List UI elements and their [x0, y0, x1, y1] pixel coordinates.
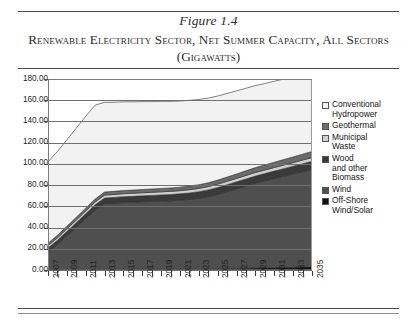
x-axis-tick — [123, 271, 124, 276]
legend-item-wood-and-other-biomass[interactable]: Wood and other Biomass — [322, 154, 417, 183]
x-axis-tick — [67, 271, 68, 276]
x-axis-label: 2029 — [259, 260, 268, 278]
x-axis-tick — [284, 271, 285, 276]
bottom-rule-thick — [18, 308, 399, 309]
legend-swatch-icon — [322, 135, 329, 142]
stacked-area-chart — [48, 79, 312, 270]
x-axis-tick — [246, 271, 247, 276]
x-axis-tick — [171, 271, 172, 276]
x-axis-tick — [265, 271, 266, 276]
x-axis-label: 2035 — [316, 260, 325, 278]
y-axis-label: 0.00 — [4, 265, 48, 274]
x-axis-tick — [48, 271, 49, 276]
x-axis-label: 2015 — [127, 260, 136, 278]
x-axis-tick — [312, 271, 313, 276]
x-axis-tick — [105, 271, 106, 276]
x-axis-tick — [152, 271, 153, 276]
legend-item-municipal-waste[interactable]: Municipal Waste — [322, 133, 417, 152]
plot-border — [48, 79, 312, 270]
x-axis-label: 2019 — [165, 260, 174, 278]
legend-item-wind[interactable]: Wind — [322, 185, 417, 195]
x-axis-tick — [114, 271, 115, 276]
x-axis-tick — [237, 271, 238, 276]
x-axis-tick — [293, 271, 294, 276]
y-axis-label: 120.00 — [4, 137, 48, 146]
y-axis-label: 20.00 — [4, 243, 48, 252]
x-axis-tick — [86, 271, 87, 276]
x-axis-tick — [76, 271, 77, 276]
legend-item-label: Geothermal — [332, 121, 376, 131]
x-axis-label: 2031 — [278, 260, 287, 278]
legend-item-conventional-hydropower[interactable]: Conventional Hydropower — [322, 100, 417, 119]
figure-container: Figure 1.4 Renewable Electricity Sector,… — [0, 0, 417, 326]
x-axis-tick — [227, 271, 228, 276]
x-axis-label: 2007 — [52, 260, 61, 278]
x-axis-tick — [189, 271, 190, 276]
legend-item-label: Wood and other Biomass — [332, 154, 367, 183]
legend-swatch-icon — [322, 156, 329, 163]
x-axis-label: 2017 — [146, 260, 155, 278]
top-rule — [18, 11, 399, 12]
y-axis: 0.0020.0040.0060.0080.00100.00120.00140.… — [0, 79, 48, 270]
x-axis-tick — [95, 271, 96, 276]
bottom-rule-thin — [18, 313, 399, 314]
x-axis-tick — [208, 271, 209, 276]
y-axis-label: 40.00 — [4, 222, 48, 231]
y-axis-label: 140.00 — [4, 116, 48, 125]
y-axis-label: 100.00 — [4, 158, 48, 167]
x-axis-label: 2013 — [108, 260, 117, 278]
legend-swatch-icon — [322, 102, 329, 109]
x-axis-tick — [274, 271, 275, 276]
legend-item-label: Conventional Hydropower — [332, 100, 381, 119]
x-axis-tick — [133, 271, 134, 276]
x-axis-label: 2011 — [89, 260, 98, 278]
chart-legend: Conventional HydropowerGeothermalMunicip… — [322, 100, 417, 218]
x-axis-label: 2025 — [221, 260, 230, 278]
title-divider-rule — [18, 68, 399, 69]
y-axis-label: 80.00 — [4, 180, 48, 189]
x-axis-tick — [142, 271, 143, 276]
legend-item-geothermal[interactable]: Geothermal — [322, 121, 417, 131]
figure-number: Figure 1.4 — [0, 13, 417, 29]
y-axis-label: 160.00 — [4, 95, 48, 104]
legend-swatch-icon — [322, 123, 329, 130]
legend-item-label: Municipal Waste — [332, 133, 367, 152]
y-axis-label: 60.00 — [4, 201, 48, 210]
x-axis-tick — [303, 271, 304, 276]
x-axis-label: 2021 — [184, 260, 193, 278]
x-axis-tick — [180, 271, 181, 276]
x-axis-label: 2023 — [202, 260, 211, 278]
figure-title: Renewable Electricity Sector, Net Summer… — [18, 31, 399, 65]
x-axis-tick — [255, 271, 256, 276]
legend-swatch-icon — [322, 198, 329, 205]
x-axis-label: 2033 — [297, 260, 306, 278]
legend-swatch-icon — [322, 187, 329, 194]
x-axis-label: 2027 — [240, 260, 249, 278]
x-axis-tick — [161, 271, 162, 276]
x-axis-tick — [57, 271, 58, 276]
y-axis-label: 180.00 — [4, 74, 48, 83]
legend-item-off-shore-wind-solar[interactable]: Off-Shore Wind/Solar — [322, 196, 417, 215]
legend-item-label: Wind — [332, 185, 351, 195]
x-axis-tick — [218, 271, 219, 276]
x-axis-label: 2009 — [70, 260, 79, 278]
x-axis-tick — [199, 271, 200, 276]
legend-item-label: Off-Shore Wind/Solar — [332, 196, 373, 215]
